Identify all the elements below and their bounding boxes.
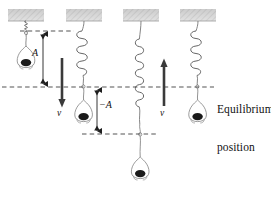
velocity-down-label: v xyxy=(57,108,61,119)
velocity-up-label: v xyxy=(160,108,164,119)
amplitude-negative-label: −A xyxy=(99,99,112,110)
equilibrium-label-line1: Equilibrium xyxy=(217,103,271,116)
velocity-arrows xyxy=(58,58,167,108)
ceiling-block-4 xyxy=(180,9,216,21)
panel-3-maximum-downward-displacement xyxy=(131,21,149,180)
ceiling-block-1 xyxy=(8,9,44,21)
amplitude-positive-label: A xyxy=(32,47,38,58)
equilibrium-position-label: Equilibrium position xyxy=(217,77,271,180)
panel-2-moving-down-through-equilibrium xyxy=(75,21,93,123)
hanging-mass-2 xyxy=(75,100,93,123)
velocity-arrow-down xyxy=(58,58,65,108)
ceiling-blocks xyxy=(8,9,216,21)
panel-4-moving-up-through-equilibrium xyxy=(189,21,207,123)
ceiling-block-2 xyxy=(66,9,102,21)
equilibrium-label-line2: position xyxy=(217,141,271,154)
velocity-arrow-up xyxy=(160,59,167,107)
spring-mass-shm-figure: A −A v v Equilibrium position xyxy=(0,0,271,206)
ceiling-block-3 xyxy=(123,9,159,21)
panel-1-maximum-upward-displacement xyxy=(17,21,35,69)
hanging-mass-4 xyxy=(189,100,207,123)
hanging-mass-3 xyxy=(131,157,149,180)
